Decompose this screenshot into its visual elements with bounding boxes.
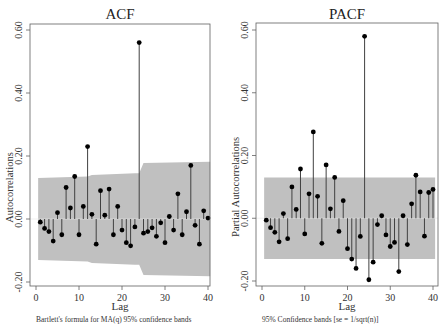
pacf-point-marker xyxy=(375,222,380,227)
pacf-point-marker xyxy=(337,229,342,234)
acf-point-marker xyxy=(59,232,64,237)
acf-point-marker xyxy=(124,240,129,245)
pacf-x-axis-label: Lag xyxy=(338,300,356,312)
acf-point-marker xyxy=(51,239,56,244)
pacf-point-marker xyxy=(311,130,316,135)
pacf-point-marker xyxy=(396,269,401,274)
acf-point-marker xyxy=(188,163,193,168)
acf-point-marker xyxy=(68,206,73,211)
acf-point-marker xyxy=(64,185,69,190)
pacf-point-marker xyxy=(268,225,273,230)
pacf-y-tick-label: 0.40 xyxy=(239,84,250,102)
pacf-point-marker xyxy=(401,213,406,218)
pacf-point-marker xyxy=(388,244,393,249)
acf-y-axis-label: Autocorrelations xyxy=(4,152,15,223)
acf-point-marker xyxy=(42,226,47,231)
acf-x-tick-label: 0 xyxy=(34,292,39,303)
acf-point-marker xyxy=(55,210,60,215)
pacf-point-marker xyxy=(324,163,329,168)
acf-point-marker xyxy=(47,229,52,234)
acf-y-tick-label: 0.60 xyxy=(13,21,24,39)
pacf-point-marker xyxy=(358,234,363,239)
pacf-point-marker xyxy=(294,207,299,212)
acf-point-marker xyxy=(115,204,120,209)
pacf-title: PACF xyxy=(329,6,365,22)
acf-point-marker xyxy=(72,174,77,179)
acf-point-marker xyxy=(193,223,198,228)
pacf-point-marker xyxy=(328,206,333,211)
pacf-x-tick-label: 40 xyxy=(428,292,438,303)
pacf-point-marker xyxy=(426,190,431,195)
acf-point-marker xyxy=(111,232,116,237)
pacf-point-marker xyxy=(277,239,282,244)
pacf-point-marker xyxy=(264,218,269,223)
acf-panel: -0.200.000.200.400.60 010203040 ACF Auto… xyxy=(4,6,213,324)
pacf-x-tick-label: 30 xyxy=(385,292,395,303)
acf-point-marker xyxy=(176,191,181,196)
acf-point-marker xyxy=(180,232,185,237)
pacf-point-marker xyxy=(405,242,410,247)
pacf-point-marker xyxy=(384,232,389,237)
acf-point-marker xyxy=(137,40,142,45)
pacf-point-marker xyxy=(332,175,337,180)
acf-point-marker xyxy=(184,209,189,214)
acf-point-marker xyxy=(154,234,159,239)
acf-point-marker xyxy=(171,228,176,233)
acf-x-tick-label: 10 xyxy=(74,292,84,303)
acf-point-marker xyxy=(98,188,103,193)
pacf-point-marker xyxy=(345,246,350,251)
acf-band-note: Bartlett's formula for MA(q) 95% confide… xyxy=(36,315,192,324)
pacf-point-marker xyxy=(362,34,367,39)
pacf-point-marker xyxy=(302,232,307,237)
pacf-point-marker xyxy=(379,213,384,218)
acf-point-marker xyxy=(38,220,43,225)
pacf-point-marker xyxy=(341,198,346,203)
pacf-x-tick-label: 0 xyxy=(260,292,265,303)
acf-point-marker xyxy=(102,213,107,218)
acf-point-marker xyxy=(141,231,146,236)
pacf-point-marker xyxy=(409,201,414,206)
acf-point-marker xyxy=(128,243,133,248)
acf-point-marker xyxy=(201,208,206,213)
pacf-point-marker xyxy=(307,191,312,196)
pacf-point-marker xyxy=(281,211,286,216)
acf-point-marker xyxy=(167,214,172,219)
acf-point-marker xyxy=(120,228,125,233)
acf-y-tick-label: 0.40 xyxy=(13,84,24,102)
pacf-x-tick-label: 10 xyxy=(300,292,310,303)
acf-point-marker xyxy=(90,212,95,217)
pacf-point-marker xyxy=(349,257,354,262)
acf-point-marker xyxy=(197,242,202,247)
acf-point-marker xyxy=(150,225,155,230)
acf-y-tick-label: -0.20 xyxy=(13,272,24,293)
pacf-y-axis: -0.200.000.200.400.60 xyxy=(239,21,256,291)
acf-x-tick-label: 40 xyxy=(203,292,213,303)
pacf-point-marker xyxy=(290,184,295,189)
acf-point-marker xyxy=(94,242,99,247)
pacf-y-tick-label: -0.20 xyxy=(239,271,250,292)
pacf-point-marker xyxy=(315,194,320,199)
acf-point-marker xyxy=(107,187,112,192)
pacf-point-marker xyxy=(371,260,376,265)
acf-point-marker xyxy=(77,232,82,237)
acf-point-marker xyxy=(158,220,163,225)
pacf-panel: -0.200.000.200.400.60 010203040 PACF Par… xyxy=(230,6,438,324)
acf-point-marker xyxy=(145,229,150,234)
pacf-point-marker xyxy=(366,277,371,282)
pacf-point-marker xyxy=(298,167,303,172)
pacf-point-marker xyxy=(414,173,419,178)
pacf-point-marker xyxy=(285,236,290,241)
pacf-point-marker xyxy=(354,266,359,271)
pacf-point-marker xyxy=(392,240,397,245)
acf-point-marker xyxy=(81,204,86,209)
acf-y-axis: -0.200.000.200.400.60 xyxy=(13,21,30,292)
pacf-y-tick-label: 0.60 xyxy=(239,21,250,39)
pacf-point-marker xyxy=(431,187,436,192)
pacf-point-marker xyxy=(418,189,423,194)
acf-point-marker xyxy=(133,224,138,229)
pacf-y-axis-label: Partial Autocorrelations xyxy=(230,137,241,237)
acf-pacf-figure: -0.200.000.200.400.60 010203040 ACF Auto… xyxy=(0,0,446,329)
pacf-point-marker xyxy=(272,230,277,235)
acf-title: ACF xyxy=(105,6,134,22)
acf-x-tick-label: 30 xyxy=(160,292,170,303)
